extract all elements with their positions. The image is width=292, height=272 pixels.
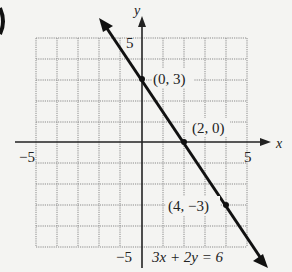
x-axis-arrow-icon	[260, 138, 271, 146]
point-0-3	[139, 76, 145, 82]
x-min-label: −5	[19, 149, 35, 165]
y-max-label: 5	[126, 35, 134, 51]
point-label-4-neg3: (4, −3)	[168, 198, 209, 215]
y-axis-label: y	[132, 3, 141, 18]
y-min-label: −5	[116, 249, 132, 265]
x-axis-label: x	[275, 136, 283, 151]
point-label-2-0: (2, 0)	[192, 120, 225, 137]
x-max-label: 5	[244, 149, 252, 165]
figure-marker	[0, 8, 3, 34]
point-label-0-3: (0, 3)	[153, 71, 186, 88]
line-arrow-down-icon	[253, 254, 268, 268]
equation-label: 3x + 2y = 6	[151, 249, 224, 265]
line-arrow-up-icon	[99, 18, 113, 32]
graph: y x 5 −5 5 −5 (0, 3) (2, 0) (4, −3) 3x +…	[0, 0, 292, 272]
point-2-0	[181, 139, 187, 145]
axes	[15, 16, 271, 268]
point-4-neg3	[223, 202, 229, 208]
